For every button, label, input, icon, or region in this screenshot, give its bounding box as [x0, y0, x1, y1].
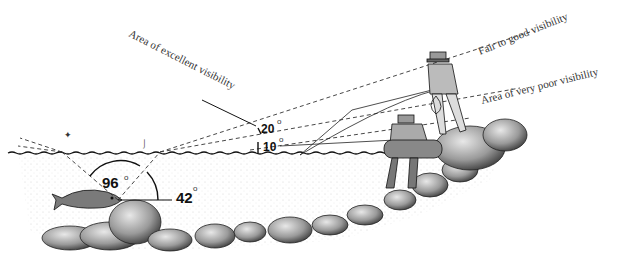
- visibility-diagram: ✦ ⌡ Area of excellent visibility Fair to…: [0, 0, 633, 260]
- degree-symbol: o: [124, 173, 129, 182]
- insect-icon: ⌡: [142, 139, 147, 149]
- angle-42: 42: [176, 189, 193, 206]
- degree-symbol: o: [193, 184, 198, 193]
- label-very-poor-visibility: Area of very poor visibility: [480, 65, 600, 106]
- angle-20: 20: [261, 122, 275, 136]
- label-excellent-visibility: Area of excellent visibility: [127, 27, 238, 91]
- degree-symbol: o: [279, 135, 284, 144]
- angle-10: 10: [263, 140, 277, 154]
- pointer-line: [202, 100, 256, 126]
- insect-icon: ✦: [64, 130, 72, 140]
- label-fair-to-good-visibility: Fair to good visibility: [476, 10, 570, 57]
- degree-symbol: o: [277, 117, 282, 126]
- illustration: ✦ ⌡ Area of excellent visibility Fair to…: [0, 0, 633, 260]
- angle-96: 96: [102, 174, 119, 191]
